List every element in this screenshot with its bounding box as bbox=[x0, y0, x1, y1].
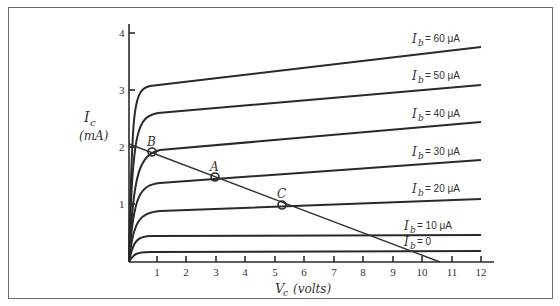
y-tick-label: 3 bbox=[119, 84, 125, 96]
curve-label-ib-50: I b = 50 μA bbox=[411, 69, 460, 85]
curve-label-ib-40: I b = 40 μA bbox=[411, 107, 460, 123]
svg-text:(volts): (volts) bbox=[293, 282, 332, 296]
transistor-characteristics-plot: 1 2 3 4 1 2 3 4 5 6 7 8 9 10 11 12 I c (… bbox=[0, 0, 560, 306]
svg-text:= 50 μA: = 50 μA bbox=[425, 70, 460, 81]
svg-text:I: I bbox=[403, 219, 409, 233]
y-tick-label: 1 bbox=[119, 198, 125, 210]
curve-label-ib-20: I b = 20 μA bbox=[411, 182, 460, 198]
y-tick-label: 4 bbox=[119, 27, 125, 39]
svg-text:b: b bbox=[418, 188, 424, 198]
svg-text:I: I bbox=[411, 69, 417, 83]
curve-label-ib-0: I b = 0 bbox=[403, 235, 432, 251]
svg-text:= 40 μA: = 40 μA bbox=[425, 108, 460, 119]
x-tick-label: 9 bbox=[390, 266, 396, 278]
x-tick-label: 6 bbox=[301, 266, 307, 278]
svg-text:b: b bbox=[410, 241, 416, 251]
svg-text:I: I bbox=[411, 107, 417, 121]
svg-text:= 30 μA: = 30 μA bbox=[425, 146, 460, 157]
x-tick-label: 12 bbox=[476, 266, 487, 278]
svg-text:= 10 μA: = 10 μA bbox=[417, 220, 452, 231]
svg-text:= 60 μA: = 60 μA bbox=[425, 33, 460, 44]
x-ticks: 1 2 3 4 5 6 7 8 9 10 11 12 bbox=[154, 256, 486, 278]
svg-text:= 20 μA: = 20 μA bbox=[425, 183, 460, 194]
svg-text:I: I bbox=[83, 109, 90, 125]
x-tick-label: 11 bbox=[447, 266, 458, 278]
svg-text:I: I bbox=[411, 182, 417, 196]
y-tick-label: 2 bbox=[119, 141, 125, 153]
svg-text:b: b bbox=[418, 113, 424, 123]
svg-text:b: b bbox=[418, 38, 424, 48]
svg-text:(mA): (mA) bbox=[79, 129, 109, 143]
x-axis-title: V c (volts) bbox=[275, 281, 332, 298]
svg-text:I: I bbox=[411, 145, 417, 159]
y-axis-title: I c (mA) bbox=[79, 109, 109, 143]
point-c-label: C bbox=[277, 187, 286, 201]
svg-text:c: c bbox=[90, 117, 96, 128]
point-a-label: A bbox=[209, 160, 219, 174]
svg-text:b: b bbox=[418, 75, 424, 85]
x-tick-label: 7 bbox=[331, 266, 337, 278]
x-tick-label: 10 bbox=[417, 266, 429, 278]
curve-label-ib-60: I b = 60 μA bbox=[411, 32, 460, 48]
x-tick-label: 2 bbox=[183, 266, 189, 278]
x-tick-label: 4 bbox=[242, 266, 248, 278]
point-b-label: B bbox=[146, 135, 156, 149]
x-tick-label: 5 bbox=[272, 266, 278, 278]
x-tick-label: 3 bbox=[213, 266, 219, 278]
svg-text:b: b bbox=[418, 151, 424, 161]
svg-text:c: c bbox=[283, 288, 288, 298]
curve-label-ib-30: I b = 30 μA bbox=[411, 145, 460, 161]
svg-text:I: I bbox=[403, 235, 409, 249]
svg-text:= 0: = 0 bbox=[417, 236, 432, 247]
svg-text:b: b bbox=[410, 225, 416, 235]
curve-ib-0 bbox=[129, 251, 481, 262]
x-tick-label: 8 bbox=[360, 266, 366, 278]
svg-text:I: I bbox=[411, 32, 417, 46]
x-tick-label: 1 bbox=[154, 266, 160, 278]
curve-label-ib-10: I b = 10 μA bbox=[403, 219, 452, 235]
